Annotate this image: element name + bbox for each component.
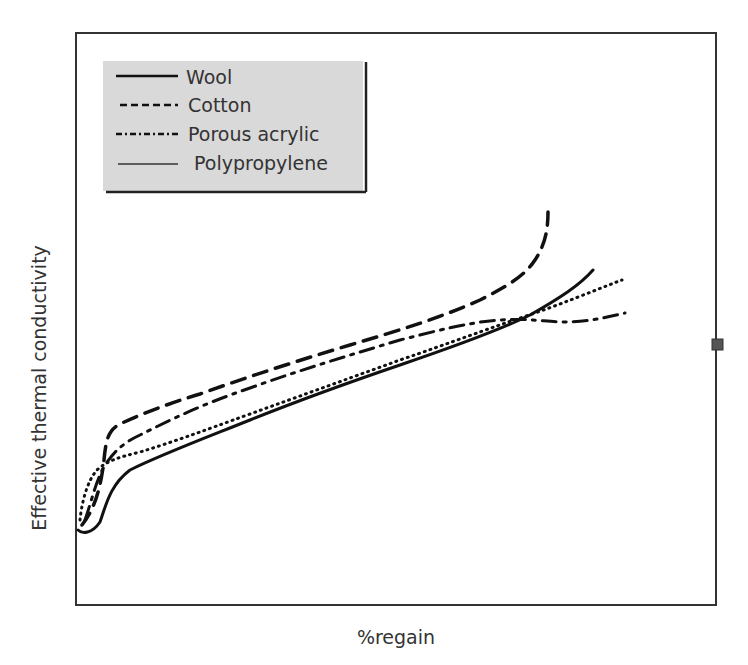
legend-label: Porous acrylic <box>188 123 320 145</box>
y-axis-label: Effective thermal conductivity <box>28 245 50 531</box>
x-axis-label: %regain <box>357 626 435 648</box>
series-group <box>78 212 625 532</box>
series-cotton <box>82 212 548 525</box>
legend-label: Wool <box>186 66 232 88</box>
series-wool <box>78 270 593 532</box>
legend-label: Polypropylene <box>194 152 328 174</box>
chart: Wool Cotton Porous acrylic Polypropylene… <box>0 0 748 665</box>
legend-label: Cotton <box>188 94 251 116</box>
legend: Wool Cotton Porous acrylic Polypropylene <box>103 61 366 192</box>
series-polypropylene <box>80 280 622 520</box>
resize-handle[interactable] <box>712 339 723 350</box>
